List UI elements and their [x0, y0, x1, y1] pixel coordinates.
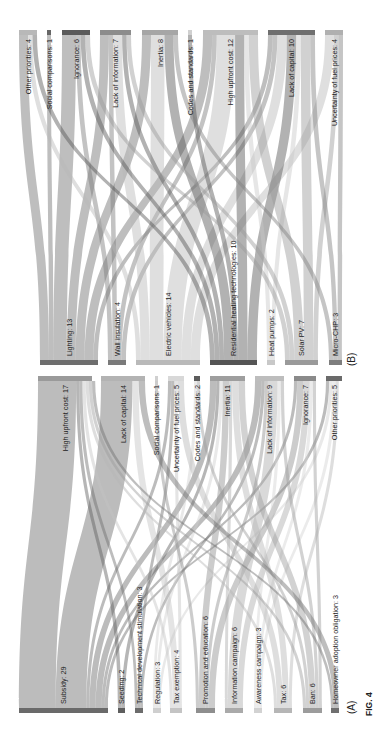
target-node-label: Social comparisons: 1 — [152, 385, 161, 455]
target-node-bar — [188, 30, 192, 35]
target-node-label: Uncertainty of fuel prices: 5 — [172, 385, 181, 472]
target-node-bar — [38, 376, 92, 381]
source-node-bar — [267, 360, 275, 365]
source-node-bar — [331, 708, 339, 713]
target-node-label: Lack of information: 9 — [265, 385, 274, 454]
source-node-bar — [225, 708, 243, 713]
source-node-label: Technical development stimulation: 3 — [135, 587, 144, 704]
source-node-bar — [108, 360, 126, 365]
target-node-label: Ignorance: 6 — [72, 39, 81, 79]
panel-label: (A) — [346, 701, 357, 714]
target-node-bar — [101, 376, 145, 381]
source-node-bar — [254, 708, 262, 713]
source-node-label: Awareness campaign: 3 — [254, 627, 263, 704]
target-node-label: Other priorities: 4 — [24, 39, 33, 94]
target-node-bar — [47, 30, 51, 35]
source-node-bar — [285, 360, 318, 365]
target-node-label: Lack of information: 7 — [111, 39, 120, 108]
source-node-label: Heat pumps: 2 — [267, 309, 276, 356]
source-node-bar — [170, 708, 182, 713]
source-node-bar — [19, 708, 108, 713]
source-node-label: Micro-CHP: 3 — [331, 313, 340, 356]
source-node-label: Residential heating technologies: 10 — [229, 241, 238, 356]
target-node-bar — [19, 30, 37, 35]
source-node-bar — [136, 360, 200, 365]
source-node-label: Tax exemption: 4 — [172, 650, 181, 704]
source-node-bar — [118, 708, 125, 713]
target-node-bar — [325, 30, 343, 35]
source-node-label: Regulation: 3 — [153, 662, 162, 704]
source-node-bar — [303, 708, 322, 713]
source-node-bar — [210, 360, 257, 365]
source-node-label: Solar PV: 7 — [297, 320, 306, 356]
source-node-label: Subsidy: 29 — [59, 666, 68, 704]
source-node-bar — [196, 708, 215, 713]
source-node-label: Ban: 6 — [308, 683, 317, 704]
target-node-label: Other priorities: 5 — [330, 385, 339, 440]
target-node-label: Social comparisons: 1 — [45, 39, 54, 109]
source-node-bar — [274, 708, 292, 713]
target-node-label: Lack of capital: 14 — [119, 385, 128, 443]
sankey-panel-a: Subsidy: 29Seeding: 2Technical developme… — [19, 376, 357, 714]
target-node-label: Codes and standards: 1 — [186, 39, 195, 115]
target-node-label: High upfront cost: 12 — [226, 39, 235, 105]
target-node-label: Uncertainty of fuel prices: 4 — [330, 39, 339, 126]
target-node-bar — [210, 376, 245, 381]
target-node-bar — [194, 376, 200, 381]
target-node-bar — [168, 376, 184, 381]
source-node-bar — [40, 360, 98, 365]
target-node-label: Inertia: 8 — [156, 39, 165, 67]
target-node-label: Lack of capital: 10 — [287, 39, 296, 97]
source-node-label: Seeding: 2 — [117, 670, 126, 704]
target-node-bar — [142, 30, 178, 35]
source-node-label: Tax: 6 — [279, 685, 288, 704]
source-node-label: Information campaign: 6 — [230, 627, 239, 704]
target-node-bar — [62, 30, 90, 35]
target-node-label: Inertia: 11 — [223, 385, 232, 416]
source-node-label: Promotion and education: 6 — [201, 616, 210, 704]
target-node-bar — [100, 30, 131, 35]
source-node-label: Wall insulation: 4 — [113, 302, 122, 356]
target-node-label: Ignorance: 7 — [301, 385, 310, 425]
sankey-panel-b: Lighting: 13Wall insulation: 4Electric v… — [19, 30, 357, 366]
target-node-bar — [268, 30, 315, 35]
target-node-bar — [294, 376, 316, 381]
target-node-label: Codes and standards: 2 — [193, 385, 202, 461]
target-node-bar — [255, 376, 284, 381]
target-node-label: High upfront cost: 17 — [61, 385, 70, 451]
target-node-bar — [203, 30, 258, 35]
panels-group: Lighting: 13Wall insulation: 4Electric v… — [19, 30, 357, 714]
source-node-label: Homeowner adoption obligation: 3 — [331, 595, 340, 704]
panel-label: (B) — [346, 353, 357, 366]
source-node-bar — [135, 708, 143, 713]
source-node-label: Electric vehicles: 14 — [164, 292, 173, 356]
target-node-bar — [155, 376, 158, 381]
source-node-label: Lighting: 13 — [65, 319, 74, 356]
sankey-figure: Lighting: 13Wall insulation: 4Electric v… — [0, 0, 377, 755]
source-node-bar — [329, 360, 342, 365]
source-node-bar — [153, 708, 161, 713]
figure-caption: FIG. 4 — [364, 692, 374, 716]
target-node-bar — [326, 376, 342, 381]
